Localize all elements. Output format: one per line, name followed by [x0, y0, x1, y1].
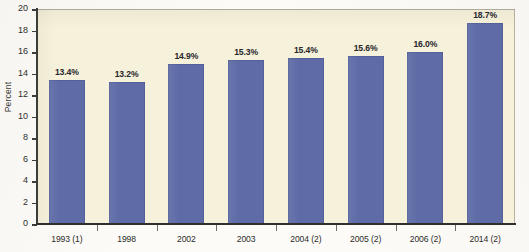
bar-highlight: [109, 82, 145, 224]
y-axis-line: [36, 8, 38, 225]
x-axis-label: 2006 (2): [395, 234, 455, 244]
y-tick-2: 2: [0, 203, 37, 204]
y-tick-label: 14: [18, 68, 28, 79]
bar: [228, 60, 264, 224]
x-axis-label: 2003: [216, 234, 276, 244]
x-axis-label: 2004 (2): [276, 234, 336, 244]
bar-value-label: 15.6%: [338, 43, 394, 53]
x-axis-label: 2002: [156, 234, 216, 244]
y-tick-4: 4: [0, 181, 37, 182]
y-tick-label: 8: [23, 132, 28, 143]
x-tick-mark: [336, 225, 337, 231]
y-tick-8: 8: [0, 138, 37, 139]
bar-highlight: [467, 23, 503, 224]
x-axis-line: [36, 223, 516, 225]
y-tick-0: 0: [0, 224, 37, 225]
bar-value-label: 13.2%: [99, 69, 155, 79]
x-axis-label: 2014 (2): [455, 234, 515, 244]
y-tick-12: 12: [0, 95, 37, 96]
bar-highlight: [348, 56, 384, 224]
y-tick-label: 4: [23, 175, 28, 186]
bar-chart: Percent 20181614121086420 13.4%13.2%14.9…: [0, 0, 529, 252]
bar-value-label: 16.0%: [397, 39, 453, 49]
y-tick-label: 18: [18, 25, 28, 36]
bar-highlight: [228, 60, 264, 224]
x-axis-label: 1993 (1): [37, 234, 97, 244]
x-tick-mark: [216, 225, 217, 231]
y-tick-label: 16: [18, 46, 28, 57]
bar-value-label: 15.3%: [218, 47, 274, 57]
x-tick-mark: [396, 225, 397, 231]
y-tick-label: 0: [23, 218, 28, 229]
y-tick-18: 18: [0, 31, 37, 32]
bar: [348, 56, 384, 224]
y-tick-14: 14: [0, 74, 37, 75]
y-axis-title: Percent: [3, 67, 13, 127]
x-tick-mark: [276, 225, 277, 231]
bar-highlight: [49, 80, 85, 224]
y-tick-6: 6: [0, 160, 37, 161]
bar-highlight: [288, 58, 324, 224]
bar-value-label: 14.9%: [158, 51, 214, 61]
y-tick-label: 12: [18, 89, 28, 100]
bar-value-label: 15.4%: [278, 45, 334, 55]
plot-top-border: [38, 9, 515, 10]
y-tick-16: 16: [0, 52, 37, 53]
y-tick-20: 20: [0, 9, 37, 10]
bar-value-label: 18.7%: [457, 10, 513, 20]
bar: [49, 80, 85, 224]
bar-value-label: 13.4%: [39, 67, 95, 77]
x-tick-mark: [455, 225, 456, 231]
x-axis-label: 2005 (2): [336, 234, 396, 244]
bar-highlight: [407, 52, 443, 224]
bar: [168, 64, 204, 224]
bar: [467, 23, 503, 224]
x-tick-mark: [97, 225, 98, 231]
x-axis-label: 1998: [97, 234, 157, 244]
y-tick-10: 10: [0, 117, 37, 118]
bar: [288, 58, 324, 224]
plot-right-border: [514, 9, 515, 224]
bar-highlight: [168, 64, 204, 224]
y-tick-label: 6: [23, 154, 28, 165]
y-tick-label: 2: [23, 197, 28, 208]
bar: [407, 52, 443, 224]
x-tick-mark: [157, 225, 158, 231]
bar: [109, 82, 145, 224]
y-tick-label: 10: [18, 111, 28, 122]
y-tick-label: 20: [18, 3, 28, 14]
